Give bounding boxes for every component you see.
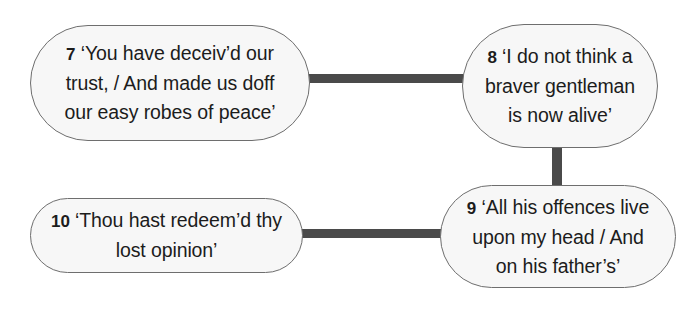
connector-node10-node9	[295, 229, 450, 238]
node-10-text: 10 ‘Thou hast redeem’d thy lost opinion’	[35, 206, 298, 265]
diagram-node-10[interactable]: 10 ‘Thou hast redeem’d thy lost opinion’	[30, 198, 303, 273]
diagram-node-8[interactable]: 8 ‘I do not think a braver gentleman is …	[462, 24, 658, 148]
node-8-text: 8 ‘I do not think a braver gentleman is …	[469, 42, 651, 130]
node-number: 8	[487, 48, 496, 67]
node-7-text: 7 ‘You have deceiv’d our trust, / And ma…	[48, 39, 291, 127]
diagram-canvas: 7 ‘You have deceiv’d our trust, / And ma…	[0, 0, 700, 313]
connector-node7-node8	[300, 74, 472, 83]
node-number: 9	[467, 199, 476, 218]
node-number: 10	[51, 212, 70, 231]
diagram-node-7[interactable]: 7 ‘You have deceiv’d our trust, / And ma…	[30, 25, 310, 141]
diagram-node-9[interactable]: 9 ‘All his offences live upon my head / …	[440, 185, 676, 288]
node-9-text: 9 ‘All his offences live upon my head / …	[451, 193, 665, 281]
node-number: 7	[66, 45, 75, 64]
